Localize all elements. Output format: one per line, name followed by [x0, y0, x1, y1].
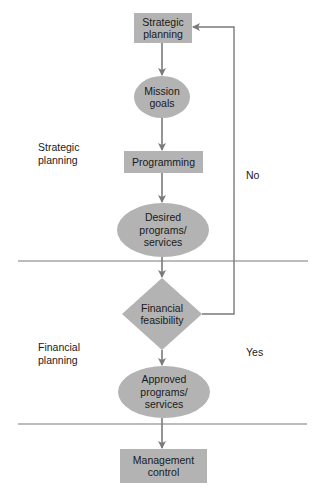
- section-label-strategic: Strategic planning: [38, 141, 79, 166]
- node-mission-goals: Mission goals: [134, 76, 190, 118]
- node-approved-programs: Approved programs/ services: [118, 366, 210, 418]
- branch-label-no: No: [246, 169, 259, 182]
- node-label: Programming: [132, 156, 195, 169]
- node-programming: Programming: [124, 151, 203, 173]
- node-management-control: Management control: [120, 449, 207, 483]
- node-label: Financial feasibility: [140, 302, 183, 327]
- node-label: Management control: [133, 454, 194, 479]
- node-financial-feasibility: Financial feasibility: [122, 296, 202, 332]
- node-label: Strategic planning: [142, 16, 183, 41]
- section-label-financial: Financial planning: [38, 341, 80, 366]
- node-label: Approved programs/ services: [140, 373, 187, 411]
- node-desired-programs: Desired programs/ services: [117, 203, 209, 257]
- node-label: Desired programs/ services: [139, 211, 186, 249]
- branch-label-yes: Yes: [246, 346, 263, 359]
- node-label: Mission goals: [144, 85, 180, 110]
- flowchart-diagram: Strategic planning Mission goals Program…: [0, 0, 318, 494]
- node-strategic-planning: Strategic planning: [134, 13, 192, 43]
